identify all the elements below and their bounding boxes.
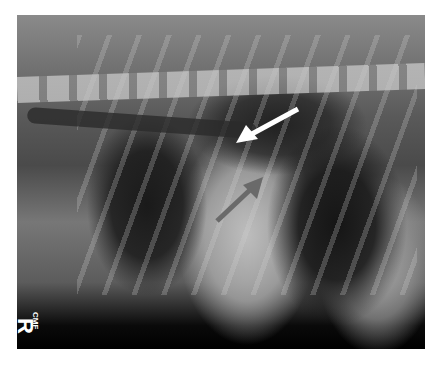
side-marker-subtext: CMF [31, 312, 40, 329]
gray-arrow-icon [213, 175, 268, 225]
radiograph-image [17, 15, 425, 349]
white-arrow-icon [232, 105, 302, 145]
